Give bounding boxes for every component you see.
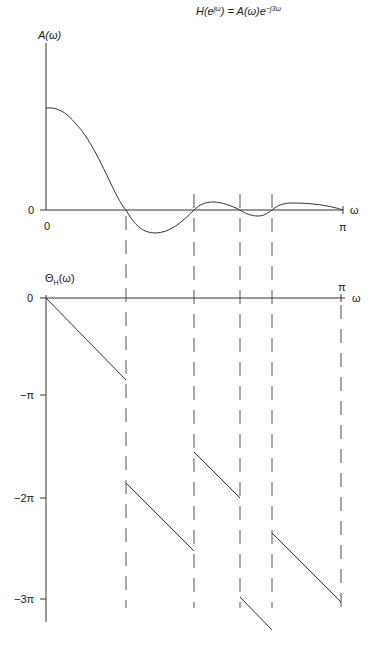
amplitude-pi-label: π [339, 221, 347, 233]
phase-segment-3 [194, 452, 240, 498]
phase-segment-4 [240, 597, 272, 630]
phase-tick-minus-pi: −π [20, 389, 34, 401]
phase-pi-label: π [338, 281, 346, 293]
phase-tick-0: 0 [27, 292, 33, 304]
amplitude-ylabel: A(ω) [37, 29, 62, 41]
diagram-canvas: H(ejω) = A(ω)e−j3ω A(ω) 0 0 π ω ΘH(ω) π … [0, 0, 380, 645]
phase-segment-1 [46, 298, 126, 380]
zero-crossing-guides [126, 194, 341, 608]
phase-tick-minus-2pi: −2π [14, 492, 35, 504]
amplitude-curve [46, 108, 343, 233]
phase-plot: ΘH(ω) π ω 0 −π −2π −3π [14, 272, 361, 630]
phase-segment-2 [126, 483, 194, 551]
phase-ylabel: ΘH(ω) [45, 272, 75, 286]
amplitude-x-zero-label: 0 [44, 220, 50, 232]
phase-omega-label: ω [352, 292, 361, 304]
amplitude-omega-label: ω [350, 204, 359, 216]
amplitude-y-zero-label: 0 [28, 204, 34, 216]
phase-tick-minus-3pi: −3π [14, 593, 35, 605]
phase-segment-5 [272, 533, 341, 602]
diagram-title: H(ejω) = A(ω)e−j3ω [196, 5, 281, 17]
